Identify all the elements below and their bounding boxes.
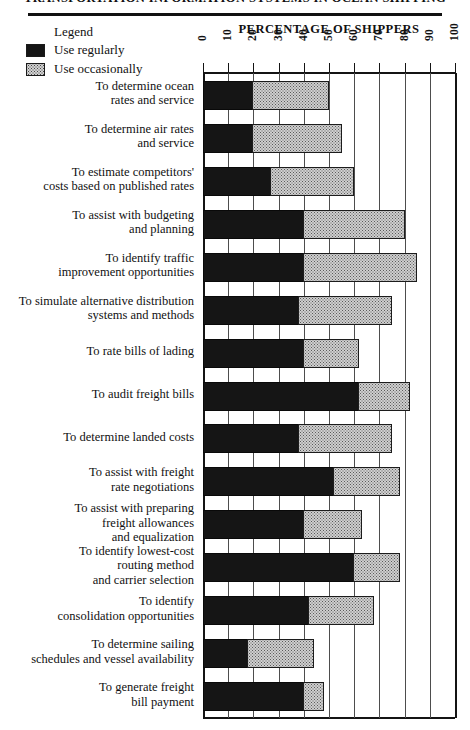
bar-segment-use-occasionally[interactable] bbox=[303, 339, 359, 368]
bar-row[interactable] bbox=[203, 510, 455, 539]
bar-row[interactable] bbox=[203, 424, 455, 453]
bar-segment-use-regularly[interactable] bbox=[203, 467, 334, 496]
bar-segment-use-regularly[interactable] bbox=[203, 424, 299, 453]
legend-item-use-regularly: Use regularly bbox=[26, 41, 196, 59]
category-label: To identify traffic improvement opportun… bbox=[0, 251, 194, 280]
stacked-bar[interactable] bbox=[203, 253, 417, 282]
stacked-bar[interactable] bbox=[203, 339, 359, 368]
legend-label-occasional: Use occasionally bbox=[54, 62, 142, 76]
gridline bbox=[455, 73, 457, 718]
running-head: TRANSPORTATION INFORMATION SYSTEMS IN OC… bbox=[0, 0, 470, 7]
category-label: To determine air rates and service bbox=[0, 122, 194, 151]
x-tick-label: 0 bbox=[197, 35, 208, 41]
x-tick-top bbox=[304, 63, 305, 73]
bar-segment-use-occasionally[interactable] bbox=[333, 467, 400, 496]
x-tick-label: 90 bbox=[424, 29, 435, 41]
x-tick-label: 80 bbox=[399, 29, 410, 41]
category-label: To determine sailing schedules and vesse… bbox=[0, 637, 194, 666]
x-tick-top bbox=[279, 63, 280, 73]
category-label: To identify lowest-cost routing method a… bbox=[0, 544, 194, 588]
stacked-bar[interactable] bbox=[203, 510, 362, 539]
bar-segment-use-regularly[interactable] bbox=[203, 296, 299, 325]
bar-row[interactable] bbox=[203, 382, 455, 411]
bar-segment-use-occasionally[interactable] bbox=[298, 424, 392, 453]
bar-segment-use-regularly[interactable] bbox=[203, 339, 304, 368]
stacked-bar[interactable] bbox=[203, 596, 374, 625]
bar-row[interactable] bbox=[203, 253, 455, 282]
stacked-bar[interactable] bbox=[203, 167, 354, 196]
stacked-bar[interactable] bbox=[203, 424, 392, 453]
bar-segment-use-regularly[interactable] bbox=[203, 510, 304, 539]
bar-row[interactable] bbox=[203, 639, 455, 668]
bar-segment-use-regularly[interactable] bbox=[203, 382, 359, 411]
x-tick-label: 40 bbox=[298, 29, 309, 41]
category-label: To estimate competitors' costs based on … bbox=[0, 165, 194, 194]
bar-segment-use-occasionally[interactable] bbox=[247, 639, 314, 668]
bar-segment-use-occasionally[interactable] bbox=[353, 553, 399, 582]
bar-segment-use-occasionally[interactable] bbox=[252, 124, 341, 153]
bar-row[interactable] bbox=[203, 124, 455, 153]
x-tick-label: 100 bbox=[449, 23, 460, 41]
bar-segment-use-regularly[interactable] bbox=[203, 596, 309, 625]
x-tick-top bbox=[405, 63, 406, 73]
legend-item-use-occasionally: Use occasionally bbox=[26, 60, 196, 78]
bar-segment-use-regularly[interactable] bbox=[203, 639, 248, 668]
bar-row[interactable] bbox=[203, 682, 455, 711]
header-rule bbox=[28, 13, 442, 16]
bar-segment-use-occasionally[interactable] bbox=[358, 382, 409, 411]
category-label: To generate freight bill payment bbox=[0, 680, 194, 709]
x-tick-top bbox=[329, 63, 330, 73]
x-tick-top bbox=[354, 63, 355, 73]
x-tick-top bbox=[228, 63, 229, 73]
bar-segment-use-occasionally[interactable] bbox=[303, 682, 324, 711]
bar-segment-use-occasionally[interactable] bbox=[298, 296, 392, 325]
bar-segment-use-regularly[interactable] bbox=[203, 167, 271, 196]
bar-segment-use-occasionally[interactable] bbox=[308, 596, 375, 625]
category-label: To rate bills of lading bbox=[0, 344, 194, 359]
category-label: To simulate alternative distribution sys… bbox=[0, 294, 194, 323]
category-label: To identify consolidation opportunities bbox=[0, 594, 194, 623]
stacked-bar[interactable] bbox=[203, 682, 324, 711]
category-label: To audit freight bills bbox=[0, 387, 194, 402]
legend-title: Legend bbox=[54, 24, 196, 40]
legend-swatch-occasional-icon bbox=[26, 63, 45, 76]
legend-swatch-regular-icon bbox=[26, 44, 45, 57]
bar-row[interactable] bbox=[203, 339, 455, 368]
stacked-bar[interactable] bbox=[203, 467, 400, 496]
stacked-bar[interactable] bbox=[203, 124, 342, 153]
bar-segment-use-regularly[interactable] bbox=[203, 210, 304, 239]
category-label: To determine landed costs bbox=[0, 430, 194, 445]
x-tick-label: 70 bbox=[373, 29, 384, 41]
bar-segment-use-regularly[interactable] bbox=[203, 682, 304, 711]
category-label: To assist with budgeting and planning bbox=[0, 208, 194, 237]
plot-area bbox=[203, 73, 455, 718]
bar-row[interactable] bbox=[203, 210, 455, 239]
bar-segment-use-occasionally[interactable] bbox=[303, 510, 362, 539]
stacked-bar[interactable] bbox=[203, 81, 329, 110]
x-tick-label: 10 bbox=[222, 29, 233, 41]
bar-row[interactable] bbox=[203, 467, 455, 496]
bar-row[interactable] bbox=[203, 596, 455, 625]
x-tick-label: 20 bbox=[247, 29, 258, 41]
legend-label-regular: Use regularly bbox=[54, 43, 124, 57]
bar-row[interactable] bbox=[203, 81, 455, 110]
bar-row[interactable] bbox=[203, 553, 455, 582]
bar-row[interactable] bbox=[203, 167, 455, 196]
stacked-bar[interactable] bbox=[203, 296, 392, 325]
bar-segment-use-occasionally[interactable] bbox=[303, 210, 405, 239]
category-label: To assist with preparing freight allowan… bbox=[0, 501, 194, 545]
bar-segment-use-regularly[interactable] bbox=[203, 81, 253, 110]
x-tick-top bbox=[203, 63, 204, 73]
bar-segment-use-regularly[interactable] bbox=[203, 124, 253, 153]
bar-segment-use-occasionally[interactable] bbox=[252, 81, 329, 110]
bar-segment-use-occasionally[interactable] bbox=[303, 253, 417, 282]
stacked-bar[interactable] bbox=[203, 210, 405, 239]
bar-row[interactable] bbox=[203, 296, 455, 325]
stacked-bar[interactable] bbox=[203, 553, 400, 582]
stacked-bar[interactable] bbox=[203, 382, 410, 411]
bar-segment-use-occasionally[interactable] bbox=[270, 167, 354, 196]
stacked-bar[interactable] bbox=[203, 639, 314, 668]
bar-segment-use-regularly[interactable] bbox=[203, 553, 354, 582]
x-tick-top bbox=[253, 63, 254, 73]
bar-segment-use-regularly[interactable] bbox=[203, 253, 304, 282]
